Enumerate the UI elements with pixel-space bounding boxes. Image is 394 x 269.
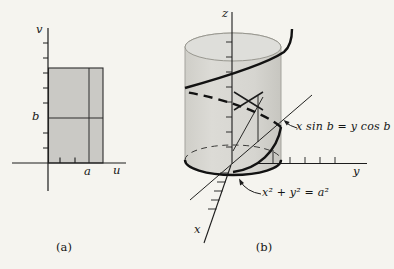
plane-equation-label: x sin b = y cos b [296, 120, 391, 133]
figure-a-plot [12, 28, 126, 191]
b-tick-label: b [32, 110, 39, 123]
y-axis-label: y [353, 165, 360, 178]
v-axis-ticks [43, 43, 48, 148]
shaded-rectangle-region [49, 68, 104, 163]
a-tick-label: a [84, 165, 91, 178]
cylinder-top-face [185, 33, 281, 61]
x-axis-label: x [194, 223, 201, 236]
u-axis-label: u [113, 164, 120, 177]
x-axis-ticks [208, 173, 229, 209]
v-axis-label: v [36, 23, 43, 36]
cylinder-equation-label: x² + y² = a² [262, 186, 329, 199]
y-axis-ticks [273, 150, 335, 164]
figure-b-caption: (b) [249, 241, 279, 254]
figure-a-caption: (a) [49, 241, 79, 254]
z-axis-label: z [222, 7, 228, 20]
textbook-figure: v u b a (a) z y x x sin b = y cos b x² +… [0, 0, 394, 269]
